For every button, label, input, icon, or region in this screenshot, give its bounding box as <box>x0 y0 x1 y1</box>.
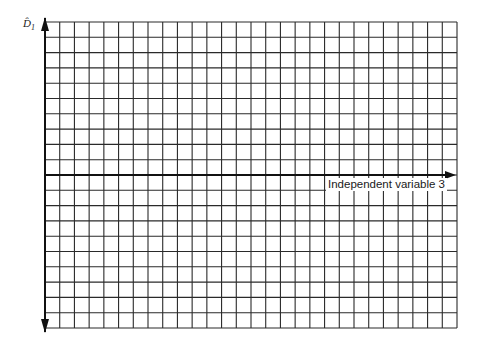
axes <box>41 17 456 333</box>
x-axis-label: Independent variable 3 <box>326 178 447 191</box>
chart-canvas <box>0 0 478 349</box>
y-axis-label: D̂1 <box>23 17 35 32</box>
